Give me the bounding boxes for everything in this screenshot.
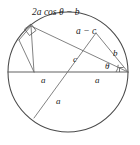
label-top-chord: 2a cos θ − b bbox=[32, 8, 80, 18]
circle-geometry-diagram: 2a cos θ − b a − c b c a a a θ bbox=[0, 0, 140, 145]
label-radius-right: a bbox=[95, 76, 100, 85]
chord-b-line bbox=[96, 33, 128, 72]
label-radius-lower: a bbox=[56, 97, 61, 106]
label-chord-b: b bbox=[113, 49, 118, 58]
label-upper-segment: a − c bbox=[76, 27, 96, 37]
left-chord-upper-line bbox=[19, 26, 31, 40]
label-theta-angle: θ bbox=[105, 62, 109, 71]
left-chord-lower-line bbox=[19, 40, 34, 72]
diagram-svg bbox=[0, 0, 140, 145]
label-center-segment: c bbox=[73, 55, 77, 64]
theta-arc-icon bbox=[116, 65, 118, 72]
label-radius-left: a bbox=[41, 76, 46, 85]
